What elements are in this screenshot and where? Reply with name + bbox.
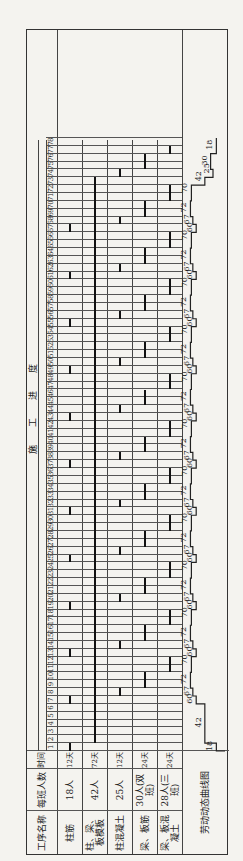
labor-value-label: 67	[182, 592, 191, 602]
labor-value-label: 67	[182, 544, 191, 554]
labor-value-label: 72	[179, 202, 188, 212]
labor-value-label: 72	[179, 250, 188, 260]
labor-value-label: 67	[182, 450, 191, 460]
labor-value-label: 67	[182, 639, 191, 649]
labor-value-label: 67	[182, 497, 191, 507]
labor-value-label: 67	[182, 686, 191, 696]
labor-value-label: 72	[179, 485, 188, 495]
labor-value-label: 42	[194, 717, 203, 727]
labor-value-label: 72	[179, 297, 188, 307]
labor-value-label: 72	[179, 627, 188, 637]
labor-value-label: 72	[179, 391, 188, 401]
labor-value-label: 67	[182, 403, 191, 413]
labor-curve	[27, 28, 229, 854]
labor-value-label: 30	[200, 155, 209, 165]
labor-value-label: 70	[180, 183, 189, 193]
labor-value-label: 67	[182, 309, 191, 319]
labor-value-label: 18	[205, 741, 214, 751]
labor-value-label: 72	[179, 674, 188, 684]
schedule-rotated-container: 工序名称 每班人数 时间 施工进度 柱筋18人12天柱、梁、板模板42人72天柱…	[14, 25, 230, 855]
labor-value-label: 67	[182, 214, 191, 224]
labor-value-label: 72	[179, 580, 188, 590]
labor-value-label: 67	[182, 261, 191, 271]
labor-value-label: 67	[182, 356, 191, 366]
schedule-table: 工序名称 每班人数 时间 施工进度 柱筋18人12天柱、梁、板模板42人72天柱…	[26, 29, 228, 855]
labor-value-label: 18	[205, 140, 214, 150]
labor-value-label: 72	[179, 344, 188, 354]
labor-value-label: 72	[179, 533, 188, 543]
labor-value-label: 72	[179, 438, 188, 448]
